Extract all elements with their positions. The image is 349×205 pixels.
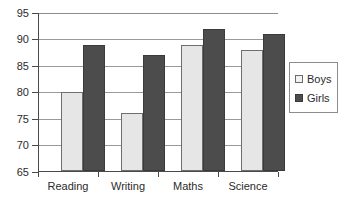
- bar-boys-reading: [61, 92, 83, 171]
- y-axis-label-70: 70: [0, 140, 29, 151]
- bar-boys-maths: [181, 45, 203, 171]
- x-axis-label-reading: Reading: [38, 180, 98, 192]
- chart-legend: Boys Girls: [289, 62, 338, 113]
- legend-label-boys: Boys: [307, 74, 331, 85]
- x-axis-tick-4: [278, 172, 279, 177]
- x-axis-tick-1: [98, 172, 99, 177]
- bar-girls-writing: [143, 55, 165, 171]
- gridline-95: [39, 13, 278, 14]
- x-axis-label-writing: Writing: [98, 180, 158, 192]
- x-axis-label-science: Science: [218, 180, 278, 192]
- y-axis-label-85: 85: [0, 61, 29, 72]
- y-axis-label-95: 95: [0, 8, 29, 19]
- x-axis-label-maths: Maths: [158, 180, 218, 192]
- legend-swatch-boys-icon: [295, 75, 303, 83]
- legend-swatch-girls-icon: [295, 94, 303, 102]
- x-axis-tick-2: [158, 172, 159, 177]
- y-axis-label-75: 75: [0, 114, 29, 125]
- plot-area: [38, 13, 278, 172]
- gridline-90: [39, 39, 278, 40]
- bar-chart-figure: 95 90 85 80 75 70 65 Reading Wri: [0, 0, 349, 205]
- legend-item-girls: Girls: [295, 89, 337, 107]
- bar-boys-science: [241, 50, 263, 171]
- bar-boys-writing: [121, 113, 143, 171]
- y-axis-label-80: 80: [0, 87, 29, 98]
- y-axis-label-65: 65: [0, 167, 29, 178]
- x-axis-tick-0: [38, 172, 39, 177]
- y-axis-label-90: 90: [0, 34, 29, 45]
- bar-girls-maths: [203, 29, 225, 171]
- x-axis-tick-3: [218, 172, 219, 177]
- bar-girls-science: [263, 34, 285, 171]
- legend-label-girls: Girls: [307, 93, 330, 104]
- legend-item-boys: Boys: [295, 70, 337, 88]
- bar-girls-reading: [83, 45, 105, 171]
